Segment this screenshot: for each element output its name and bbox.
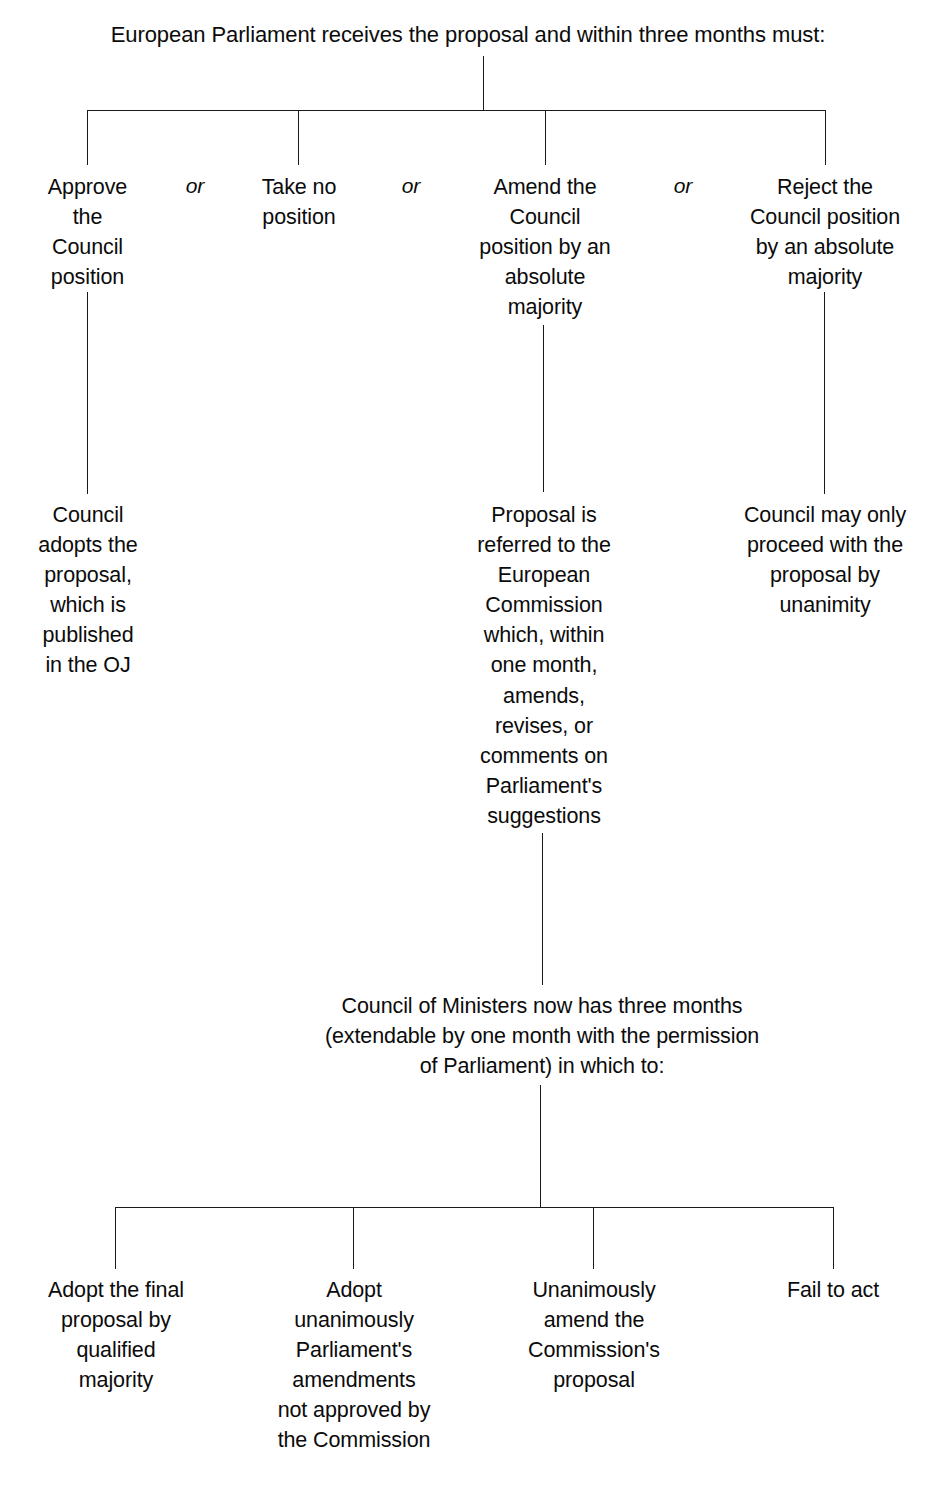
connector-drop-1a: [87, 110, 88, 165]
connector-drop-2b: [353, 1207, 354, 1269]
stage4-option-adopt-unanimously: Adopt unanimously Parliament's amendment…: [254, 1275, 454, 1456]
connector-reject-to-unanimity: [824, 292, 825, 494]
stage1-option-reject: Reject the Council position by an absolu…: [716, 172, 934, 292]
flowchart-title: European Parliament receives the proposa…: [48, 20, 888, 50]
stage2-outcome-referred-to-commission: Proposal is referred to the European Com…: [449, 500, 639, 831]
stage4-option-unanimously-amend: Unanimously amend the Commission's propo…: [503, 1275, 685, 1395]
connector-drop-2d: [833, 1207, 834, 1269]
connector-stage3-stem: [540, 1085, 541, 1207]
stage3-heading: Council of Ministers now has three month…: [172, 991, 912, 1081]
connector-amend-to-referred: [543, 325, 544, 492]
connector-drop-2a: [115, 1207, 116, 1269]
connector-drop-1b: [298, 110, 299, 165]
connector-commission-to-council-ministers: [542, 833, 543, 985]
stage4-option-fail-to-act: Fail to act: [752, 1275, 914, 1305]
connector-branch-bar-top: [87, 110, 825, 111]
connector-drop-1c: [545, 110, 546, 165]
stage4-option-adopt-qualified-majority: Adopt the final proposal by qualified ma…: [25, 1275, 207, 1395]
flowchart-canvas: European Parliament receives the proposa…: [0, 0, 937, 1505]
stage2-outcome-council-unanimity: Council may only proceed with the propos…: [716, 500, 934, 620]
or-label-3: or: [648, 174, 718, 198]
connector-drop-1d: [825, 110, 826, 165]
connector-drop-2c: [593, 1207, 594, 1269]
connector-title-stem: [483, 56, 484, 110]
stage1-option-amend: Amend the Council position by an absolut…: [447, 172, 643, 322]
stage2-outcome-council-adopts: Council adopts the proposal, which is pu…: [8, 500, 168, 681]
stage1-option-approve: Approve the Council position: [10, 172, 165, 292]
stage1-option-take-no-position: Take no position: [228, 172, 370, 232]
connector-approve-to-adopt: [87, 292, 88, 494]
connector-branch-bar-bottom: [115, 1207, 833, 1208]
or-label-2: or: [376, 174, 446, 198]
or-label-1: or: [160, 174, 230, 198]
